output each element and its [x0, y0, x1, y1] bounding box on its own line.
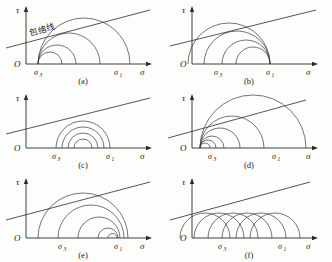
circles-group — [200, 95, 306, 148]
tau-axis-label: τ — [182, 177, 186, 187]
sigma3-label: σ — [218, 242, 223, 251]
mohr-circle-5 — [108, 234, 117, 239]
mohr-circle-4 — [74, 139, 92, 148]
sigma1-subscript: 1 — [120, 246, 123, 252]
sigma-axis-label: σ — [140, 151, 145, 161]
sigma1-label: σ — [114, 68, 119, 77]
tau-axis-label: τ — [16, 93, 20, 103]
sigma-axis-arrow — [146, 62, 152, 66]
sigma1-subscript: 1 — [120, 72, 123, 78]
panel-caption-a: (a) — [78, 76, 88, 86]
sigma-axis-label: σ — [306, 151, 311, 161]
failure-envelope-line — [6, 98, 150, 134]
panel-b: τσOσ3σ1(b) — [166, 0, 332, 88]
sigma3-subscript: 3 — [213, 156, 217, 162]
tau-axis-arrow — [24, 178, 28, 184]
sigma1-label: σ — [266, 68, 271, 77]
origin-label: O — [180, 143, 187, 153]
sigma3-label: σ — [58, 242, 63, 251]
sigma3-label: σ — [214, 68, 219, 77]
mohr-circle-6 — [200, 95, 306, 148]
sigma1-label: σ — [278, 242, 283, 251]
sigma-axis-label: σ — [306, 67, 311, 77]
panel-f-plot: τσOσ3σ1(f) — [166, 172, 332, 262]
mohr-circle-3 — [38, 33, 100, 64]
sigma-axis-label: σ — [140, 67, 145, 77]
tau-axis-arrow — [190, 94, 194, 100]
origin-label: O — [180, 233, 187, 243]
origin-label: O — [180, 59, 187, 69]
mohr-circle-4 — [188, 23, 270, 64]
panel-e: τσOσ3σ1(e) — [0, 172, 166, 262]
sigma3-subscript: 3 — [223, 246, 227, 252]
sigma3-subscript: 3 — [57, 156, 61, 162]
sigma3-subscript: 3 — [219, 72, 223, 78]
origin-label: O — [14, 233, 21, 243]
panel-caption-e: (e) — [78, 250, 88, 260]
sigma1-label: σ — [272, 152, 277, 161]
mohr-circle-3 — [78, 217, 120, 238]
tau-axis-label: τ — [16, 177, 20, 187]
failure-envelope-line — [168, 100, 306, 138]
mohr-circle-figure: τσOσ3σ1包络线(a) τσOσ3σ1(b) τσOσ3σ1(c) τσOσ… — [0, 0, 332, 262]
sigma1-subscript: 1 — [112, 156, 115, 162]
panel-b-plot: τσOσ3σ1(b) — [166, 0, 332, 88]
panel-c-plot: τσOσ3σ1(c) — [0, 88, 166, 172]
panel-caption-d: (d) — [244, 160, 254, 170]
sigma-axis-arrow — [146, 236, 152, 240]
tau-axis-arrow — [24, 94, 28, 100]
panel-caption-b: (b) — [244, 76, 254, 86]
panel-f: τσOσ3σ1(f) — [166, 172, 332, 262]
sigma1-label: σ — [114, 242, 119, 251]
tau-axis-label: τ — [16, 5, 20, 15]
panel-caption-c: (c) — [78, 160, 88, 170]
tau-axis-arrow — [190, 178, 194, 184]
tau-axis-arrow — [24, 6, 28, 12]
origin-label: O — [14, 59, 21, 69]
tau-axis-arrow — [190, 6, 194, 12]
failure-envelope-line — [6, 182, 150, 220]
panel-a: τσOσ3σ1包络线(a) — [0, 0, 166, 88]
panel-d-plot: τσOσ3σ1(d) — [166, 88, 332, 172]
sigma-axis-arrow — [312, 236, 318, 240]
sigma3-label: σ — [34, 68, 39, 77]
sigma1-label: σ — [106, 152, 111, 161]
panel-caption-f: (f) — [245, 250, 254, 260]
circles-group — [188, 23, 270, 64]
origin-label: O — [14, 143, 21, 153]
sigma3-subscript: 3 — [39, 72, 43, 78]
mohr-circle-1 — [38, 52, 62, 64]
mohr-circle-4 — [200, 128, 240, 148]
mohr-circle-2 — [58, 205, 124, 238]
panel-e-plot: τσOσ3σ1(e) — [0, 172, 166, 262]
sigma-axis-arrow — [312, 146, 318, 150]
sigma1-subscript: 1 — [278, 156, 281, 162]
sigma-axis-label: σ — [140, 241, 145, 251]
circles-group — [56, 121, 110, 148]
sigma-axis-arrow — [312, 62, 318, 66]
sigma1-subscript: 1 — [272, 72, 275, 78]
panel-d: τσOσ3σ1(d) — [166, 88, 332, 172]
mohr-circle-3 — [200, 136, 224, 148]
sigma3-subscript: 3 — [63, 246, 67, 252]
tau-axis-label: τ — [182, 5, 186, 15]
mohr-circle-3 — [68, 133, 98, 148]
sigma3-label: σ — [208, 152, 213, 161]
sigma1-subscript: 1 — [284, 246, 287, 252]
tau-axis-label: τ — [182, 93, 186, 103]
sigma-axis-label: σ — [306, 241, 311, 251]
panel-a-plot: τσOσ3σ1包络线(a) — [0, 0, 166, 88]
panel-c: τσOσ3σ1(c) — [0, 88, 166, 172]
sigma3-label: σ — [52, 152, 57, 161]
panel-grid: τσOσ3σ1包络线(a) τσOσ3σ1(b) τσOσ3σ1(c) τσOσ… — [0, 0, 332, 262]
sigma-axis-arrow — [146, 146, 152, 150]
mohr-circle-1 — [56, 121, 110, 148]
circles-group — [180, 213, 300, 238]
